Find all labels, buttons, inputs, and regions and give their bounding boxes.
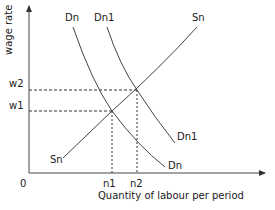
n1-label: n1 (103, 179, 116, 189)
dn1-top-label: Dn1 (94, 13, 114, 23)
sn-top-label: Sn (192, 13, 205, 23)
y-axis-label: wage rate (4, 5, 14, 55)
dn1-curve (107, 27, 175, 143)
x-axis-label: Quantity of labour per period (98, 191, 244, 201)
dn-bottom-label: Dn (168, 161, 182, 171)
sn-bottom-label: Sn (50, 155, 63, 165)
dn1-bottom-label: Dn1 (177, 132, 197, 142)
w2-label: w2 (9, 79, 24, 89)
dn-top-label: Dn (65, 13, 79, 23)
dn-curve (73, 27, 165, 167)
n2-label: n2 (130, 179, 143, 189)
w1-label: w1 (9, 101, 24, 111)
origin-label: 0 (20, 179, 26, 189)
